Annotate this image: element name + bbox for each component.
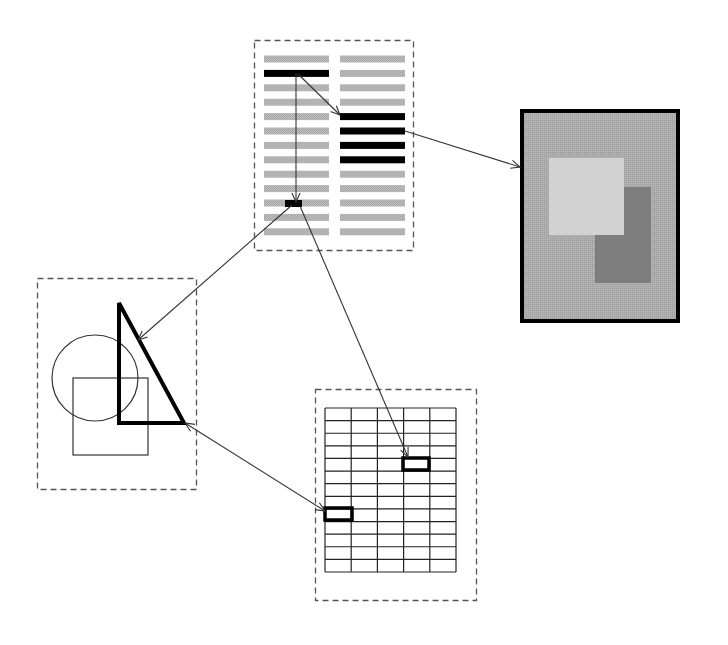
image-panel[interactable] <box>522 111 678 321</box>
arrow-lines-to-image <box>405 131 520 167</box>
text-line <box>340 228 405 235</box>
text-line <box>264 56 329 63</box>
text-line <box>340 200 405 207</box>
text-line <box>340 70 405 77</box>
text-line <box>340 99 405 106</box>
text-line <box>264 228 329 235</box>
text-line <box>340 84 405 91</box>
arrow-mark-to-triangle <box>138 205 292 340</box>
highlighted-word-mark[interactable] <box>285 200 302 207</box>
arrowhead-icon <box>185 423 195 431</box>
text-line <box>264 214 329 221</box>
document-panel[interactable] <box>255 41 414 251</box>
text-line <box>340 185 405 192</box>
arrow-bar-to-right-lines <box>298 74 340 115</box>
arrow-triangle-to-table-cell <box>185 423 325 511</box>
highlighted-text-line[interactable] <box>340 113 405 120</box>
table-grid <box>325 408 456 572</box>
highlighted-text-line[interactable] <box>340 142 405 149</box>
text-line <box>340 214 405 221</box>
table-panel[interactable] <box>316 390 477 601</box>
image-light-region <box>549 158 624 235</box>
highlighted-table-cell[interactable] <box>325 508 352 520</box>
highlighted-text-line[interactable] <box>340 156 405 163</box>
diagram-canvas <box>0 0 728 645</box>
arrow-mark-to-table-cell <box>300 206 408 457</box>
text-line <box>340 171 405 178</box>
highlighted-table-cell[interactable] <box>403 458 429 470</box>
highlighted-text-line[interactable] <box>340 128 405 135</box>
text-line <box>340 56 405 63</box>
